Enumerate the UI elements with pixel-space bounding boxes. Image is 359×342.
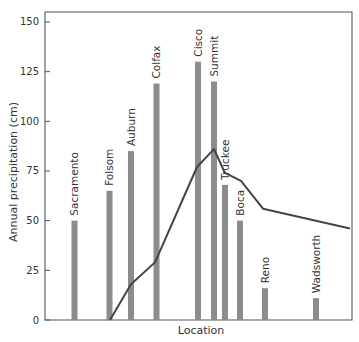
- y-tick-label: 50: [26, 215, 39, 226]
- bar-wadsworth: [313, 298, 319, 320]
- bar-auburn: [128, 151, 134, 320]
- y-tick-label: 150: [20, 16, 39, 27]
- y-tick-label: 100: [20, 116, 39, 127]
- bar-sacramento: [72, 221, 78, 320]
- y-axis-title: Annual precipitation (cm): [7, 102, 20, 242]
- bar-label-folsom: Folsom: [103, 149, 115, 186]
- y-tick-label: 25: [26, 265, 39, 276]
- bar-cisco: [195, 62, 201, 320]
- bar-label-reno: Reno: [259, 257, 271, 283]
- bar-summit: [211, 82, 217, 320]
- bar-label-colfax: Colfax: [150, 46, 162, 79]
- bar-label-auburn: Auburn: [125, 108, 137, 146]
- bar-reno: [262, 288, 268, 320]
- bar-label-sacramento: Sacramento: [68, 152, 80, 216]
- bar-label-cisco: Cisco: [192, 29, 204, 57]
- y-tick-label: 75: [26, 165, 39, 176]
- y-tick-label: 0: [33, 315, 39, 326]
- line-series: [110, 149, 350, 320]
- bar-truckee: [222, 185, 228, 320]
- bar-colfax: [154, 84, 160, 320]
- elevation-line: [110, 149, 350, 320]
- bar-label-wadsworth: Wadsworth: [310, 235, 322, 293]
- precipitation-chart: 0255075100125150 SacramentoFolsomAuburnC…: [0, 0, 359, 342]
- bar-series: [72, 62, 320, 320]
- bar-label-summit: Summit: [208, 36, 220, 77]
- bar-label-boca: Boca: [234, 190, 246, 216]
- x-axis-title: Location: [178, 324, 225, 337]
- y-tick-label: 125: [20, 66, 39, 77]
- bar-boca: [237, 221, 243, 320]
- bar-folsom: [107, 191, 113, 320]
